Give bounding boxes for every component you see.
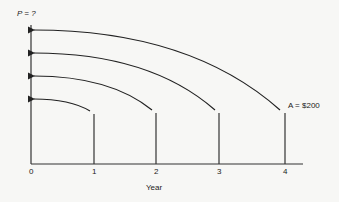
arrow-1 xyxy=(34,99,90,111)
tick-2: 2 xyxy=(154,167,158,176)
x-axis-label: Year xyxy=(146,183,162,192)
annuity-label: A = $200 xyxy=(288,101,320,110)
tick-4: 4 xyxy=(283,167,287,176)
present-value-label: P = ? xyxy=(17,9,36,18)
tick-1: 1 xyxy=(92,167,96,176)
arrow-2 xyxy=(34,76,152,110)
tick-0: 0 xyxy=(29,167,33,176)
arrow-4 xyxy=(34,30,280,110)
tick-3: 3 xyxy=(217,167,221,176)
